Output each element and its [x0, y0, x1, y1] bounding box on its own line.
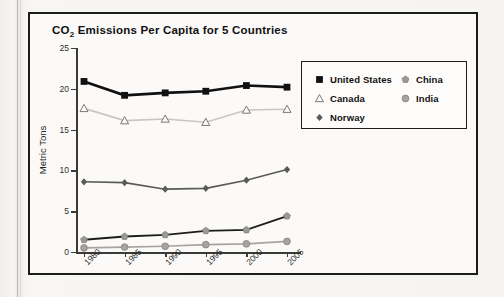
legend-box: United StatesCanadaNorway ChinaIndia	[301, 61, 467, 129]
data-point	[284, 166, 290, 173]
legend-label: Canada	[330, 93, 365, 104]
data-point	[243, 226, 250, 233]
chart-title-co: CO	[52, 24, 70, 36]
page-edge-line-secondary	[20, 0, 21, 297]
series-line	[84, 170, 287, 190]
series-line	[84, 241, 287, 248]
data-point	[121, 92, 128, 99]
data-point	[202, 227, 209, 234]
data-point	[162, 89, 169, 96]
data-point	[81, 78, 88, 85]
data-point	[203, 185, 209, 192]
filled-diamond-icon	[312, 112, 326, 123]
y-tick-label: 5	[64, 206, 69, 216]
data-point	[243, 82, 250, 89]
y-tick-label: 10	[60, 165, 69, 175]
y-tick-label: 25	[60, 43, 69, 53]
data-point	[162, 231, 169, 238]
gray-pentagon-icon	[398, 74, 412, 85]
legend-item-united-states[interactable]: United States	[312, 70, 392, 89]
data-point	[284, 84, 291, 91]
y-tick	[71, 252, 76, 253]
legend-item-china[interactable]: China	[398, 70, 443, 89]
legend-item-norway[interactable]: Norway	[312, 108, 392, 127]
data-point	[81, 245, 88, 252]
data-point	[202, 241, 209, 248]
series-line	[84, 108, 287, 122]
plot-area: Metric Tons 0510152025 19801985199019952…	[76, 48, 301, 266]
series-line	[84, 216, 287, 240]
data-point	[121, 233, 128, 240]
page-edge-line	[17, 0, 18, 297]
legend-column-left: United StatesCanadaNorway	[312, 70, 392, 127]
figure-frame: CO2 Emissions Per Capita for 5 Countries…	[28, 12, 478, 275]
legend-label: India	[416, 93, 439, 104]
data-point	[284, 213, 291, 220]
data-point	[81, 236, 88, 243]
y-tick-label: 0	[64, 247, 69, 257]
y-tick-label: 20	[60, 84, 69, 94]
legend-item-india[interactable]: India	[398, 89, 443, 108]
data-point	[243, 240, 250, 247]
data-point	[202, 88, 209, 95]
series-canada	[80, 104, 291, 125]
y-axis-label: Metric Tons	[37, 126, 48, 174]
series-norway	[81, 166, 290, 193]
legend-column-right: ChinaIndia	[398, 70, 443, 108]
data-point	[162, 186, 168, 193]
data-point	[121, 179, 127, 186]
data-point	[284, 238, 291, 245]
data-point	[121, 244, 128, 251]
legend-label: China	[416, 74, 443, 85]
series-india	[81, 238, 291, 251]
chart-title-rest: Emissions Per Capita for 5 Countries	[74, 24, 287, 36]
chart-title: CO2 Emissions Per Capita for 5 Countries	[52, 24, 288, 39]
series-united-states	[81, 78, 291, 99]
data-point	[81, 178, 87, 185]
data-point	[162, 243, 169, 250]
series-china	[81, 213, 291, 243]
legend-label: Norway	[330, 112, 365, 123]
series-container	[76, 48, 301, 252]
series-line	[84, 81, 287, 95]
gray-circle-icon	[398, 93, 412, 104]
y-tick-label: 15	[60, 125, 69, 135]
x-axis	[76, 252, 301, 254]
page-background: CO2 Emissions Per Capita for 5 Countries…	[0, 0, 504, 297]
legend-item-canada[interactable]: Canada	[312, 89, 392, 108]
open-triangle-icon	[312, 93, 326, 104]
legend-label: United States	[330, 74, 392, 85]
filled-square-icon	[312, 74, 326, 85]
data-point	[80, 104, 88, 111]
data-point	[243, 177, 249, 184]
